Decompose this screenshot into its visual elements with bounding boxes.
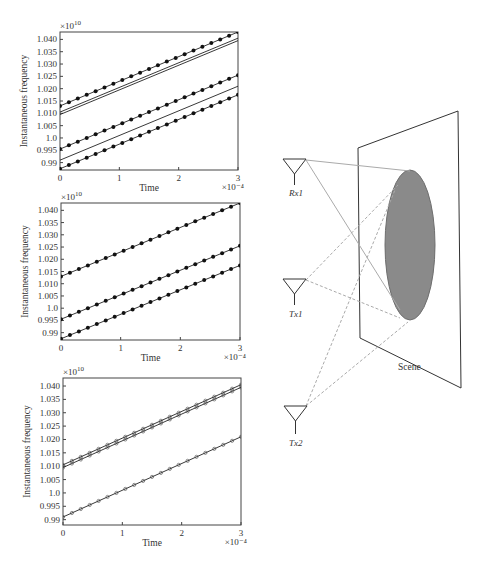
y-tick-label: 0.995 — [38, 315, 59, 325]
data-point — [95, 260, 99, 264]
x-tick-label: 2 — [176, 173, 181, 183]
y-tick-label: 1.020 — [40, 434, 61, 444]
y-exponent-label: ×1010 — [63, 365, 85, 377]
data-point — [122, 311, 126, 315]
data-point — [174, 99, 178, 103]
data-point — [59, 317, 63, 321]
data-point — [166, 230, 170, 234]
data-point — [157, 234, 161, 238]
y-tick-label: 1.030 — [40, 408, 61, 418]
data-point — [147, 130, 151, 134]
data-point — [86, 263, 90, 267]
data-point — [236, 93, 240, 97]
x-exponent-label: ×10⁻⁴ — [222, 182, 244, 192]
data-point — [183, 52, 187, 56]
data-point — [227, 97, 231, 101]
y-tick-label: 1.040 — [38, 205, 59, 215]
series-line-thin-1b — [60, 41, 238, 115]
data-point — [165, 103, 169, 107]
data-point — [209, 104, 213, 108]
data-point — [103, 148, 107, 152]
data-point — [200, 88, 204, 92]
data-point — [156, 63, 160, 67]
data-point — [94, 152, 98, 156]
data-point — [192, 48, 196, 52]
data-point — [122, 292, 126, 296]
data-point — [229, 205, 233, 209]
data-point — [129, 137, 133, 141]
x-axis-label: Time — [142, 538, 162, 548]
data-point — [220, 208, 224, 212]
tx2-ray-bottom — [306, 322, 408, 406]
data-point — [220, 251, 224, 255]
antenna-label-tx2: Tx2 — [289, 438, 303, 448]
y-axis-label: Instantaneous frequency — [20, 225, 30, 318]
data-point — [58, 104, 62, 108]
data-point — [166, 293, 170, 297]
data-point — [157, 277, 161, 281]
y-tick-label: 1.040 — [37, 34, 58, 44]
data-point — [218, 81, 222, 85]
data-point — [211, 255, 215, 259]
data-point — [68, 333, 72, 337]
data-point — [86, 326, 90, 330]
y-exponent-label: ×1010 — [60, 19, 82, 31]
y-tick-label: 1.010 — [40, 461, 61, 471]
data-point — [113, 295, 117, 299]
data-point — [113, 315, 117, 319]
data-point — [184, 266, 188, 270]
data-point — [131, 245, 135, 249]
y-tick-label: 1.035 — [38, 218, 59, 228]
data-point — [211, 212, 215, 216]
data-point — [149, 281, 153, 285]
data-point — [138, 134, 142, 138]
data-point — [147, 110, 151, 114]
y-tick-label: 1.035 — [37, 47, 58, 57]
data-point — [238, 244, 242, 248]
data-point — [140, 284, 144, 288]
data-point — [184, 223, 188, 227]
data-point — [211, 274, 215, 278]
data-point — [111, 125, 115, 129]
data-point — [85, 156, 89, 160]
y-tick-label: 1.030 — [38, 230, 59, 240]
data-point — [86, 306, 90, 310]
y-tick-label: 1.005 — [37, 121, 58, 131]
y-tick-label: 1.030 — [37, 59, 58, 69]
data-point — [68, 314, 72, 318]
data-point — [59, 274, 63, 278]
data-point — [157, 296, 161, 300]
data-point — [140, 304, 144, 308]
data-point — [94, 89, 98, 93]
data-point — [218, 37, 222, 41]
y-tick-label: 1.015 — [37, 96, 58, 106]
data-point — [147, 67, 151, 71]
series-line-est-2 — [63, 437, 241, 517]
data-point — [209, 84, 213, 88]
series-line-thin-1a — [60, 38, 238, 112]
y-tick-label: 1.025 — [40, 421, 61, 431]
y-tick-label: 0.99 — [41, 158, 57, 168]
data-point — [193, 219, 197, 223]
data-point — [103, 85, 107, 89]
y-tick-label: 1.015 — [38, 267, 59, 277]
data-point — [140, 241, 144, 245]
series-line-est-1b — [63, 387, 241, 467]
y-tick-label: 1.0 — [46, 133, 58, 143]
data-point — [129, 74, 133, 78]
data-point — [104, 299, 108, 303]
data-point — [165, 60, 169, 64]
data-point — [113, 252, 117, 256]
data-point — [122, 249, 126, 253]
data-point — [138, 71, 142, 75]
data-point — [193, 262, 197, 266]
data-point — [227, 34, 231, 38]
data-point — [175, 270, 179, 274]
data-point — [76, 159, 80, 163]
data-point — [120, 141, 124, 145]
data-point — [202, 258, 206, 262]
data-point — [165, 122, 169, 126]
y-tick-label: 1.020 — [38, 254, 59, 264]
x-axis-label: Time — [141, 353, 161, 363]
data-point — [156, 106, 160, 110]
